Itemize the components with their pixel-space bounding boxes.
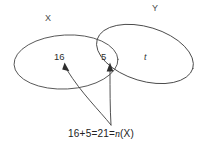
set-label-x: X xyxy=(45,14,51,23)
set-label-y: Y xyxy=(152,4,158,13)
venn-diagram: X Y 16 5 t 16+5=21=n(X) xyxy=(0,0,202,151)
set-x-ellipse xyxy=(13,32,120,91)
equation-sum: 21 xyxy=(97,128,109,139)
leader-line-to-5 xyxy=(110,70,111,125)
region-count-intersection: 5 xyxy=(101,52,106,62)
equation-caption: 16+5=21=n(X) xyxy=(0,129,202,139)
region-count-x-only: 16 xyxy=(54,52,65,62)
equation-function-argument: (X) xyxy=(120,128,134,139)
arrowhead-to-16 xyxy=(62,63,69,72)
region-label-y-only: t xyxy=(144,53,147,63)
equation-term-a: 16 xyxy=(68,128,80,139)
